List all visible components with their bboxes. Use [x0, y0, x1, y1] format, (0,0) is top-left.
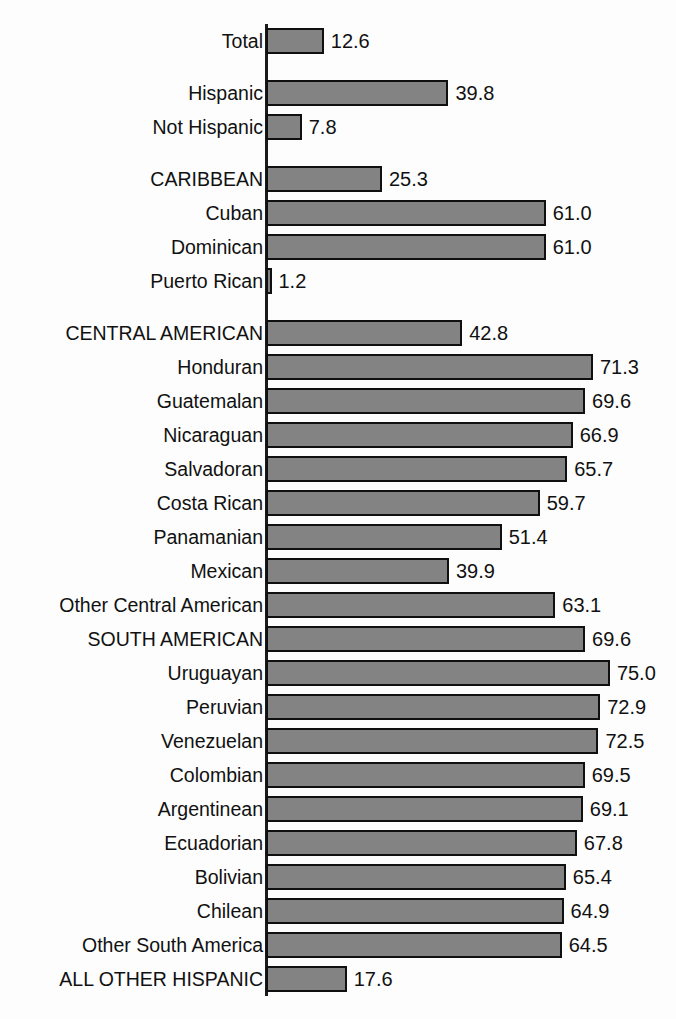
bar-category-label: Peruvian	[186, 690, 263, 724]
bar-category-label: Nicaraguan	[163, 418, 263, 452]
bar	[266, 422, 573, 448]
bar-category-label: Bolivian	[195, 860, 263, 894]
bar-row: Panamanian51.4	[0, 520, 676, 554]
bar	[266, 558, 449, 584]
bar-value-label: 71.3	[600, 350, 639, 384]
bar-category-label: Cuban	[206, 196, 263, 230]
bar-row: Bolivian65.4	[0, 860, 676, 894]
bar	[266, 966, 347, 992]
bar	[266, 660, 610, 686]
bar-row: Dominican61.0	[0, 230, 676, 264]
chart-title	[0, 0, 676, 4]
bar-row: Costa Rican59.7	[0, 486, 676, 520]
bar-row: Other Central American63.1	[0, 588, 676, 622]
bar-row: Other South America64.5	[0, 928, 676, 962]
bar	[266, 626, 585, 652]
bar-value-label: 25.3	[389, 162, 428, 196]
bar-category-label: Panamanian	[154, 520, 264, 554]
bar	[266, 592, 555, 618]
bar-category-label: Not Hispanic	[152, 110, 263, 144]
bar-row: ALL OTHER HISPANIC17.6	[0, 962, 676, 996]
bar-category-label: Colombian	[170, 758, 263, 792]
bar	[266, 388, 585, 414]
bar-value-label: 67.8	[584, 826, 623, 860]
bar-value-label: 51.4	[509, 520, 548, 554]
bar	[266, 320, 462, 346]
bar-category-label: Dominican	[171, 230, 263, 264]
bar	[266, 728, 598, 754]
bar-row: Total12.6	[0, 24, 676, 58]
bar-value-label: 65.4	[573, 860, 612, 894]
bar-value-label: 75.0	[617, 656, 656, 690]
bar-category-label: Venezuelan	[161, 724, 263, 758]
bar-category-label: Argentinean	[158, 792, 263, 826]
bar	[266, 932, 562, 958]
bar	[266, 268, 272, 294]
bar-row: Hispanic39.8	[0, 76, 676, 110]
bar-value-label: 61.0	[553, 230, 592, 264]
bar-category-label: Salvadoran	[164, 452, 263, 486]
bar-category-label: Costa Rican	[157, 486, 263, 520]
bar-row: Nicaraguan66.9	[0, 418, 676, 452]
bar-category-label: Other Central American	[59, 588, 263, 622]
bar-row: CENTRAL AMERICAN42.8	[0, 316, 676, 350]
bar-chart: Total12.6Hispanic39.8Not Hispanic7.8CARI…	[0, 0, 676, 1019]
bar-value-label: 39.8	[455, 76, 494, 110]
bar-row: Salvadoran65.7	[0, 452, 676, 486]
bar	[266, 114, 302, 140]
bar-value-label: 65.7	[574, 452, 613, 486]
bar-row: SOUTH AMERICAN69.6	[0, 622, 676, 656]
bar-row: Uruguayan75.0	[0, 656, 676, 690]
bar-category-label: Honduran	[177, 350, 263, 384]
bar-value-label: 69.6	[592, 384, 631, 418]
bar	[266, 796, 583, 822]
bar-value-label: 72.5	[605, 724, 644, 758]
bar-value-label: 66.9	[580, 418, 619, 452]
bar-value-label: 61.0	[553, 196, 592, 230]
bar-value-label: 7.8	[309, 110, 337, 144]
bar-value-label: 59.7	[547, 486, 586, 520]
bar-category-label: CARIBBEAN	[150, 162, 263, 196]
bar-row: Peruvian72.9	[0, 690, 676, 724]
bar-row: Cuban61.0	[0, 196, 676, 230]
bar-value-label: 69.1	[590, 792, 629, 826]
bar-value-label: 39.9	[456, 554, 495, 588]
bar-row: Mexican39.9	[0, 554, 676, 588]
bar	[266, 354, 593, 380]
bar	[266, 898, 564, 924]
bar-row: Chilean64.9	[0, 894, 676, 928]
bar-row: Not Hispanic7.8	[0, 110, 676, 144]
bar	[266, 28, 324, 54]
bar-value-label: 63.1	[562, 588, 601, 622]
bar	[266, 490, 540, 516]
bar-category-label: ALL OTHER HISPANIC	[59, 962, 263, 996]
bar-value-label: 1.2	[279, 264, 307, 298]
bar-category-label: Hispanic	[188, 76, 263, 110]
bar-category-label: CENTRAL AMERICAN	[65, 316, 263, 350]
bar	[266, 762, 585, 788]
bar-value-label: 12.6	[331, 24, 370, 58]
bar	[266, 830, 577, 856]
bar-category-label: Mexican	[190, 554, 263, 588]
bar-value-label: 72.9	[607, 690, 646, 724]
bar-value-label: 64.9	[571, 894, 610, 928]
bar	[266, 524, 502, 550]
bar-category-label: Total	[222, 24, 263, 58]
bar-value-label: 17.6	[354, 962, 393, 996]
bar-value-label: 69.5	[592, 758, 631, 792]
bar-row: Guatemalan69.6	[0, 384, 676, 418]
bar-row: Puerto Rican1.2	[0, 264, 676, 298]
bar-value-label: 64.5	[569, 928, 608, 962]
bar	[266, 456, 567, 482]
bar-row: Venezuelan72.5	[0, 724, 676, 758]
bar-row: Ecuadorian67.8	[0, 826, 676, 860]
bar-category-label: Guatemalan	[157, 384, 263, 418]
bar-value-label: 42.8	[469, 316, 508, 350]
bar-category-label: SOUTH AMERICAN	[87, 622, 263, 656]
bar-value-label: 69.6	[592, 622, 631, 656]
bar	[266, 234, 546, 260]
bar-category-label: Ecuadorian	[164, 826, 263, 860]
bar-category-label: Uruguayan	[168, 656, 263, 690]
bar-category-label: Other South America	[82, 928, 263, 962]
bar	[266, 80, 448, 106]
